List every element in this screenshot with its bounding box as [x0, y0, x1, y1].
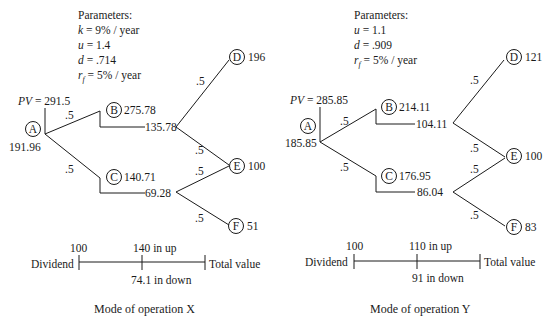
branch-b-e	[453, 123, 505, 157]
node-d: D 196	[230, 50, 266, 65]
present-value-label: PV = 285.85	[289, 94, 348, 106]
parameter-rf: rf = 5% / year	[78, 69, 141, 84]
node-f-letter: F	[511, 221, 517, 233]
node-c-letter: C	[110, 171, 118, 183]
node-c-net-value: 86.04	[417, 186, 443, 198]
branch-b-d	[176, 60, 229, 127]
branch-a-b	[320, 109, 415, 142]
node-b-letter: B	[110, 104, 118, 116]
panel-caption: Mode of operation X	[94, 302, 195, 316]
node-f-letter: F	[233, 220, 239, 232]
prob-c-f: .5	[195, 212, 204, 224]
present-value-label: PV = 291.5	[17, 95, 70, 107]
node-c-letter: C	[385, 170, 393, 182]
timeline-dividend-label: Dividend	[305, 256, 348, 268]
node-a-letter: A	[29, 123, 38, 135]
cashflow-timeline: 100 140 in up Dividend Total value 74.1 …	[31, 242, 260, 286]
parameters-block: Parameters: u = 1.1 d = .909 rf = 5% / y…	[354, 9, 417, 69]
node-e: E 100	[507, 149, 543, 164]
node-f: F 83	[507, 220, 537, 235]
node-e-letter: E	[510, 150, 517, 162]
node-a-value: 185.85	[285, 137, 317, 149]
node-f-value: 51	[247, 220, 259, 232]
node-c-value: 176.95	[399, 170, 431, 182]
timeline-end-label: Total value	[209, 258, 260, 270]
prob-c-e: .5	[470, 163, 479, 175]
parameter-u: u = 1.1	[354, 24, 387, 36]
node-d-letter: D	[233, 51, 241, 63]
prob-a-b: .5	[65, 109, 74, 121]
node-b: B 214.11 104.11	[382, 100, 448, 131]
cashflow-timeline: 100 110 in up Dividend Total value 91 in…	[305, 240, 535, 284]
node-a-letter: A	[304, 120, 313, 132]
node-d-letter: D	[510, 51, 518, 63]
node-a: A 185.85	[285, 119, 317, 150]
node-b-value: 214.11	[399, 101, 430, 113]
prob-a-c: .5	[65, 163, 74, 175]
parameter-k: k = 9% / year	[78, 24, 140, 37]
node-f-value: 83	[525, 221, 537, 233]
node-b-letter: B	[385, 101, 393, 113]
parameters-title: Parameters:	[354, 9, 408, 21]
panel-caption: Mode of operation Y	[370, 302, 471, 316]
parameter-u: u = 1.4	[78, 39, 111, 51]
prob-a-b: .5	[340, 115, 349, 127]
prob-b-e: .5	[470, 142, 479, 154]
node-d-value: 196	[248, 51, 266, 63]
node-b-value: 275.78	[124, 104, 156, 116]
node-e-letter: E	[233, 160, 240, 172]
prob-c-e: .5	[195, 165, 204, 177]
timeline-dividend-value: 100	[346, 240, 364, 252]
prob-b-d: .5	[196, 75, 205, 87]
node-c: C 176.95 86.04	[382, 169, 444, 199]
node-f: F 51	[229, 219, 259, 234]
branch-c-f	[453, 192, 505, 226]
prob-b-d: .5	[470, 74, 479, 86]
prob-c-f: .5	[470, 209, 479, 221]
node-a: A 191.96	[9, 122, 41, 154]
timeline-dividend-value: 100	[70, 242, 88, 254]
prob-b-e: .5	[195, 144, 204, 156]
node-e-value: 100	[248, 160, 266, 172]
timeline-dividend-label: Dividend	[31, 258, 74, 270]
prob-a-c: .5	[340, 161, 349, 173]
parameters-block: Parameters: k = 9% / year u = 1.4 d = .7…	[78, 9, 141, 84]
timeline-down-label: 74.1 in down	[131, 274, 192, 286]
branch-a-c	[320, 142, 415, 192]
binomial-tree-figure: Parameters: k = 9% / year u = 1.4 d = .7…	[0, 0, 556, 330]
panel-mode-x: Parameters: k = 9% / year u = 1.4 d = .7…	[9, 9, 266, 316]
branch-a-c	[45, 134, 145, 193]
node-e: E 100	[230, 159, 266, 174]
panel-mode-y: Parameters: u = 1.1 d = .909 rf = 5% / y…	[285, 9, 543, 316]
node-c: C 140.71 69.28	[107, 170, 172, 200]
node-d: D 121	[507, 50, 543, 65]
parameters-title: Parameters:	[78, 9, 132, 21]
parameter-d: d = .909	[354, 39, 392, 51]
node-e-value: 100	[525, 150, 543, 162]
timeline-end-label: Total value	[484, 256, 535, 268]
node-b: B 275.78 135.78	[107, 103, 177, 134]
node-a-value: 191.96	[9, 141, 41, 153]
node-b-net-value: 135.78	[145, 121, 177, 133]
timeline-down-label: 91 in down	[412, 272, 464, 284]
branch-b-d	[453, 60, 504, 123]
branch-c-e	[453, 158, 505, 192]
timeline-up-label: 110 in up	[409, 240, 452, 253]
parameter-d: d = .714	[78, 54, 116, 66]
node-b-net-value: 104.11	[416, 118, 447, 130]
node-c-value: 140.71	[124, 171, 156, 183]
timeline-up-label: 140 in up	[133, 242, 177, 255]
node-d-value: 121	[525, 51, 543, 63]
node-c-net-value: 69.28	[145, 187, 171, 199]
parameter-rf: rf = 5% / year	[354, 54, 417, 69]
